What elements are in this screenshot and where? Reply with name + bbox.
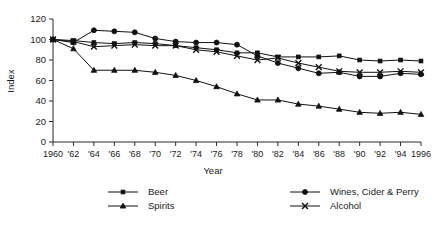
x-tick-label: '84 [292, 149, 304, 159]
marker-square [317, 55, 321, 59]
x-tick-label: '64 [88, 149, 100, 159]
marker-circle [275, 61, 280, 66]
marker-circle [194, 40, 199, 45]
marker-circle [303, 190, 308, 195]
marker-square [337, 54, 341, 58]
legend-label: Wines, Cider & Perry [330, 186, 419, 197]
marker-square [92, 41, 96, 45]
x-tick-label: '72 [170, 149, 182, 159]
chart-figure: 020406080100120 Index 1960'62'64'66'68'7… [0, 0, 432, 228]
marker-square [296, 55, 300, 59]
y-tick-label: 120 [30, 13, 46, 24]
x-tick-label: '86 [313, 149, 325, 159]
x-axis: 1960'62'64'66'68'70'72'74'76'78'80'82'84… [43, 142, 431, 176]
y-axis-title: Index [5, 69, 16, 92]
series-layer [50, 28, 424, 117]
x-tick-label: 1960 [43, 149, 63, 159]
marker-square [358, 58, 362, 62]
y-tick-label: 40 [35, 95, 46, 106]
legend-item-wines-cider-perry: Wines, Cider & Perry [290, 186, 419, 197]
marker-circle [214, 40, 219, 45]
legend-item-spirits: Spirits [108, 200, 175, 211]
marker-circle [91, 28, 96, 33]
x-tick-label: '76 [211, 149, 223, 159]
x-tick-label: '78 [231, 149, 243, 159]
x-tick-label: 1996 [411, 149, 431, 159]
marker-circle [235, 42, 240, 47]
marker-square [399, 58, 403, 62]
legend-item-alcohol: Alcohol [290, 200, 361, 211]
y-tick-label: 60 [35, 75, 46, 86]
marker-square [121, 190, 125, 194]
x-tick-label: '70 [149, 149, 161, 159]
x-tick-label: '90 [354, 149, 366, 159]
y-tick-label: 80 [35, 54, 46, 65]
legend-label: Beer [148, 186, 168, 197]
x-axis-title: Year [203, 165, 222, 176]
y-tick-label: 100 [30, 34, 46, 45]
marker-circle [112, 29, 117, 34]
y-axis: 020406080100120 Index [5, 13, 53, 147]
x-tick-label: '80 [252, 149, 264, 159]
y-tick-label: 0 [41, 136, 46, 147]
x-tick-label: '74 [190, 149, 202, 159]
legend-label: Spirits [148, 200, 175, 211]
legend-item-beer: Beer [108, 186, 168, 197]
marker-circle [153, 36, 158, 41]
x-tick-label: '94 [395, 149, 407, 159]
x-tick-label: '62 [68, 149, 80, 159]
x-tick-label: '82 [272, 149, 284, 159]
series-beer [51, 38, 423, 63]
marker-circle [316, 71, 321, 76]
marker-square [419, 59, 423, 63]
x-tick-label: '88 [333, 149, 345, 159]
x-tick-label: '66 [108, 149, 120, 159]
marker-square [378, 59, 382, 63]
marker-circle [296, 66, 301, 71]
x-tick-label: '92 [374, 149, 386, 159]
line-chart-svg: 020406080100120 Index 1960'62'64'66'68'7… [0, 0, 432, 228]
marker-triangle [398, 109, 404, 114]
legend-label: Alcohol [330, 200, 361, 211]
marker-circle [132, 30, 137, 35]
x-tick-label: '68 [129, 149, 141, 159]
y-tick-label: 20 [35, 116, 46, 127]
chart-legend: BeerWines, Cider & PerrySpiritsAlcohol [108, 186, 419, 211]
